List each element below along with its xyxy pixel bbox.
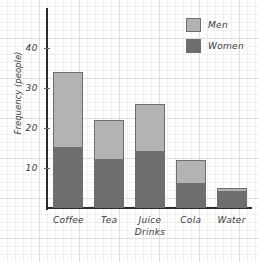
- bar-segment-men[interactable]: [217, 188, 247, 192]
- bar-segment-men[interactable]: [53, 72, 83, 148]
- y-axis-title: Frequency (people): [13, 33, 23, 153]
- bar-segment-women[interactable]: [94, 160, 124, 208]
- bar-segment-women[interactable]: [217, 192, 247, 208]
- bar-segment-men[interactable]: [135, 104, 165, 152]
- legend-item-men: Men: [186, 18, 254, 32]
- bar-segment-women[interactable]: [135, 152, 165, 208]
- chart-legend: Men Women: [186, 18, 254, 60]
- legend-swatch-men: [186, 18, 201, 32]
- bar-juice-drinks[interactable]: [135, 104, 165, 208]
- bar-cola[interactable]: [176, 160, 206, 208]
- legend-swatch-women: [186, 39, 201, 53]
- bar-coffee[interactable]: [53, 72, 83, 208]
- x-label-line: Drinks: [118, 226, 182, 238]
- x-label-line: Water: [200, 214, 259, 226]
- bar-tea[interactable]: [94, 120, 124, 208]
- stacked-bar-chart: 10203040 Frequency (people) CoffeeTeaJui…: [0, 0, 259, 262]
- legend-item-women: Women: [186, 39, 254, 53]
- legend-label-women: Women: [208, 41, 244, 51]
- bar-water[interactable]: [217, 188, 247, 208]
- x-label-water: Water: [200, 214, 259, 226]
- bar-segment-women[interactable]: [176, 184, 206, 208]
- bar-segment-men[interactable]: [176, 160, 206, 184]
- legend-label-men: Men: [208, 20, 228, 30]
- bar-segment-women[interactable]: [53, 148, 83, 208]
- y-tick-label-10: 10: [0, 163, 38, 173]
- bar-segment-men[interactable]: [94, 120, 124, 160]
